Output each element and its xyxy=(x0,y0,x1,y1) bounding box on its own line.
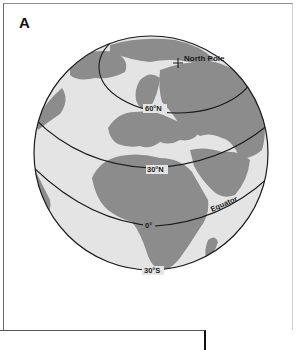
greenland-land xyxy=(70,51,126,79)
lat-30n-label: 30°N xyxy=(147,165,164,174)
next-panel-edge xyxy=(0,330,206,350)
lat-30s-label: 30°S xyxy=(144,266,160,275)
lat-0-label: 0° xyxy=(145,221,152,230)
lat-60n-label: 60°N xyxy=(145,104,162,113)
north-pole-label: North Pole xyxy=(184,54,225,63)
